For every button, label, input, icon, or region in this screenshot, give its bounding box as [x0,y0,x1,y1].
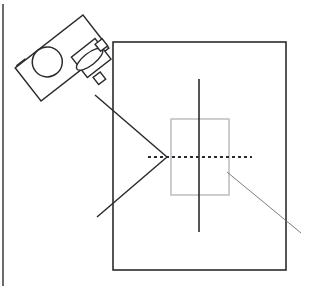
camera-projection-diagram [0,0,317,288]
figure-canvas: Camera projection onto a planar target [0,0,317,288]
